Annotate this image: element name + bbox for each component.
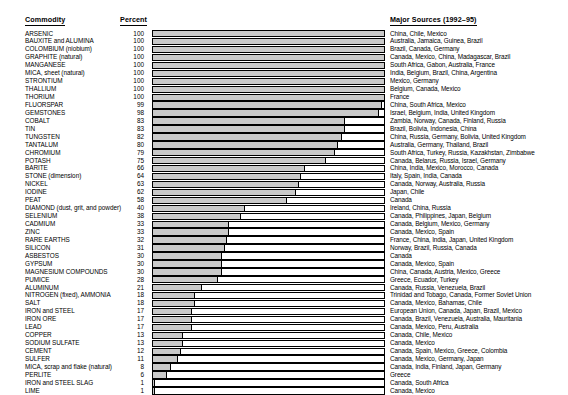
table-row: IRON and STEEL SLAG1Canada, South Africa bbox=[0, 379, 568, 387]
commodity-label: CHROMIUM bbox=[25, 149, 60, 157]
major-sources-label: South Africa, Gabon, Australia, France bbox=[390, 61, 495, 69]
bar-fill bbox=[153, 269, 222, 274]
commodity-label: ZINC bbox=[25, 228, 40, 236]
major-sources-label: Norway, Brazil, Russia, Canada bbox=[390, 244, 477, 252]
commodity-label: SULFER bbox=[25, 355, 50, 363]
column-header-major-sources: Major Sources (1992–95) bbox=[390, 15, 477, 26]
bar-track bbox=[152, 292, 385, 299]
bar-track bbox=[152, 141, 385, 148]
bar-fill bbox=[153, 325, 192, 330]
bar-track bbox=[152, 371, 385, 378]
bar-track bbox=[152, 276, 385, 283]
bar-fill bbox=[153, 150, 335, 155]
commodity-label: MICA, sheet (natural) bbox=[25, 69, 85, 77]
table-row: BARITE66China, India, Mexico, Morocco, C… bbox=[0, 165, 568, 173]
table-row: RARE EARTHS32France, China, India, Japan… bbox=[0, 236, 568, 244]
major-sources-label: France, China, India, Japan, United King… bbox=[390, 236, 513, 244]
commodity-label: BAUXITE and ALUMINA bbox=[25, 37, 94, 45]
bar-track bbox=[152, 268, 385, 275]
bar-fill bbox=[153, 364, 171, 369]
table-row: COPPER13Canada, Chile, Mexico bbox=[0, 332, 568, 340]
bar-fill bbox=[153, 126, 345, 131]
commodity-label: GEMSTONES bbox=[25, 109, 65, 117]
major-sources-label: Brazil, Canada, Germany bbox=[390, 45, 459, 53]
percent-value: 18 bbox=[106, 291, 144, 299]
percent-value: 100 bbox=[106, 53, 144, 61]
bar-track bbox=[152, 284, 385, 291]
bar-track bbox=[152, 379, 385, 386]
bar-track bbox=[152, 340, 385, 347]
major-sources-label: Greece bbox=[390, 371, 410, 379]
bar-track bbox=[152, 300, 385, 307]
percent-value: 58 bbox=[106, 196, 144, 204]
commodity-label: STRONTIUM bbox=[25, 77, 63, 85]
percent-value: 8 bbox=[106, 363, 144, 371]
bar-fill bbox=[153, 285, 202, 290]
commodity-label: TIN bbox=[25, 125, 35, 133]
percent-value: 33 bbox=[106, 220, 144, 228]
percent-value: 99 bbox=[106, 101, 144, 109]
table-row: NICKEL63Canada, Norway, Australia, Russi… bbox=[0, 181, 568, 189]
bar-track bbox=[152, 363, 385, 370]
commodity-label: IODINE bbox=[25, 188, 47, 196]
chart-rows-container: ARSENIC100China, Chile, MexicoBAUXITE an… bbox=[0, 30, 568, 395]
table-row: IRON ORE17Canada, Brazil, Venezuela, Aus… bbox=[0, 316, 568, 324]
commodity-label: IRON ORE bbox=[25, 315, 56, 323]
bar-fill bbox=[153, 229, 229, 234]
bar-fill bbox=[153, 198, 287, 203]
bar-track bbox=[152, 213, 385, 220]
percent-value: 17 bbox=[106, 307, 144, 315]
major-sources-label: Canada, Mexico, Bahamas, Chile bbox=[390, 299, 482, 307]
major-sources-label: Canada, Mexico bbox=[390, 339, 435, 347]
bar-track bbox=[152, 46, 385, 53]
commodity-label: COLOMBIUM (niobium) bbox=[25, 45, 92, 53]
bar-fill bbox=[153, 253, 222, 258]
bar-track bbox=[152, 62, 385, 69]
bar-fill bbox=[153, 79, 384, 84]
commodity-label: ARSENIC bbox=[25, 30, 53, 38]
percent-value: 83 bbox=[106, 125, 144, 133]
table-row: SILICON31Norway, Brazil, Russia, Canada bbox=[0, 244, 568, 252]
bar-fill bbox=[153, 142, 338, 147]
bar-fill bbox=[153, 182, 299, 187]
major-sources-label: China, Canada, Austria, Mexico, Greece bbox=[390, 268, 500, 276]
major-sources-label: Mexico, Germany bbox=[390, 77, 439, 85]
table-row: MICA, scrap and flake (natural)8Canada, … bbox=[0, 363, 568, 371]
major-sources-label: Canada, South Africa bbox=[390, 379, 448, 387]
bar-fill bbox=[153, 87, 384, 92]
major-sources-label: France bbox=[390, 93, 409, 101]
commodity-label: NICKEL bbox=[25, 180, 48, 188]
commodity-label: FLUORSPAR bbox=[25, 101, 63, 109]
major-sources-label: Australia, Jamaica, Guinea, Brazil bbox=[390, 37, 483, 45]
bar-fill bbox=[153, 341, 183, 346]
major-sources-label: India, Belgium, Brazil, China, Argentina bbox=[390, 69, 497, 77]
percent-value: 79 bbox=[106, 149, 144, 157]
major-sources-label: Canada, Belarus, Russia, Israel, Germany bbox=[390, 157, 506, 165]
percent-value: 30 bbox=[106, 260, 144, 268]
table-row: STRONTIUM100Mexico, Germany bbox=[0, 78, 568, 86]
bar-track bbox=[152, 157, 385, 164]
table-row: LIME1Canada, Mexico bbox=[0, 387, 568, 395]
bar-track bbox=[152, 221, 385, 228]
bar-track bbox=[152, 38, 385, 45]
bar-fill bbox=[153, 47, 384, 52]
bar-track bbox=[152, 125, 385, 132]
major-sources-label: China, India, Mexico, Morocco, Canada bbox=[390, 164, 498, 172]
commodity-label: BARITE bbox=[25, 164, 48, 172]
percent-value: 31 bbox=[106, 244, 144, 252]
percent-value: 100 bbox=[106, 61, 144, 69]
major-sources-label: Zambia, Norway, Canada, Finland, Russia bbox=[390, 117, 506, 125]
bar-track bbox=[152, 101, 385, 108]
bar-fill bbox=[153, 333, 183, 338]
bar-track bbox=[152, 94, 385, 101]
percent-value: 33 bbox=[106, 228, 144, 236]
commodity-label: SALT bbox=[25, 299, 40, 307]
commodity-label: MAGNESIUM COMPOUNDS bbox=[25, 268, 108, 276]
commodity-label: TANTALUM bbox=[25, 141, 58, 149]
percent-value: 64 bbox=[106, 172, 144, 180]
major-sources-label: Australia, Germany, Thailand, Brazil bbox=[390, 141, 488, 149]
percent-value: 11 bbox=[106, 355, 144, 363]
bar-fill bbox=[153, 110, 379, 115]
table-row: MAGNESIUM COMPOUNDS30China, Canada, Aust… bbox=[0, 268, 568, 276]
column-header-commodity: Commodity bbox=[25, 15, 65, 26]
